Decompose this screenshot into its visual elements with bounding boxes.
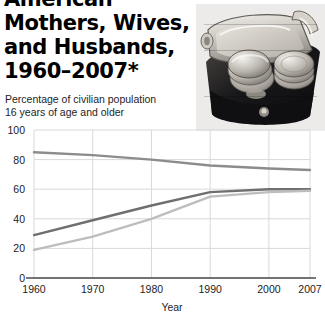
x-tick-label: 1990 [198,283,222,295]
x-axis-title: Year [161,301,183,313]
y-tick-label: 80 [13,154,25,166]
y-tick-label: 40 [13,213,25,225]
page-title: American Mothers, Wives, and Husbands, 1… [4,0,204,83]
x-tick-label: 1970 [81,283,105,295]
x-tick-label: 1980 [140,283,164,295]
chart-subtitle: Percentage of civilian population 16 yea… [5,93,185,118]
y-tick-label: 60 [13,183,25,195]
y-tick-label: 100 [7,124,25,136]
x-tick-label: 2007 [298,283,322,295]
line-chart: 020406080100196019701980199020002007Year [0,118,325,315]
x-tick-label: 2000 [257,283,281,295]
x-tick-label: 1960 [22,283,46,295]
coin-purse-photo [196,4,325,131]
magazine-page: American Mothers, Wives, and Husbands, 1… [0,0,325,315]
y-tick-label: 20 [13,242,25,254]
chart-gridlines [34,130,310,278]
